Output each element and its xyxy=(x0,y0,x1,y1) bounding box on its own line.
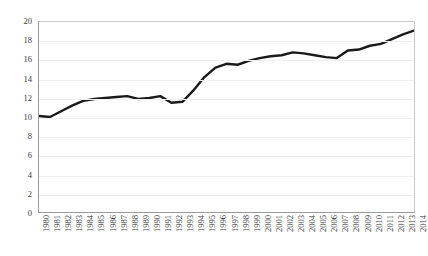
y-tick-label: 0 xyxy=(28,209,32,218)
x-axis: 1980198119821983198419851986198719881989… xyxy=(38,215,415,256)
y-axis: 02468101214161820 xyxy=(0,0,36,256)
x-tick-label: 1984 xyxy=(86,215,95,232)
x-tick-label-text: 1994 xyxy=(197,215,206,232)
x-tick-label: 2014 xyxy=(419,215,428,232)
x-tick-label-text: 2003 xyxy=(297,215,306,232)
x-tick-label-text: 1988 xyxy=(131,215,140,232)
x-tick-label-text: 1997 xyxy=(231,215,240,232)
y-tick-label: 2 xyxy=(28,189,32,198)
x-tick-label: 1998 xyxy=(242,215,251,232)
x-tick-label-text: 2001 xyxy=(275,215,284,232)
x-tick-label: 1999 xyxy=(253,215,262,232)
x-tick-label: 2012 xyxy=(397,215,406,232)
x-tick-label: 1995 xyxy=(208,215,217,232)
x-tick-label-text: 1992 xyxy=(175,215,184,232)
gridline xyxy=(39,156,414,157)
y-tick-label: 8 xyxy=(28,132,32,141)
x-tick-label: 1994 xyxy=(197,215,206,232)
x-tick-label: 1981 xyxy=(53,215,62,232)
x-tick-label: 2011 xyxy=(386,215,395,232)
x-tick-label: 2006 xyxy=(330,215,339,232)
x-tick-label-text: 2008 xyxy=(352,215,361,232)
x-tick-label-text: 1996 xyxy=(219,215,228,232)
x-tick-label-text: 1983 xyxy=(75,215,84,232)
x-tick-label-text: 2005 xyxy=(319,215,328,232)
x-tick-label-text: 1987 xyxy=(120,215,129,232)
x-tick-label: 2008 xyxy=(352,215,361,232)
y-tick-label: 18 xyxy=(24,36,33,45)
x-tick-label: 1991 xyxy=(164,215,173,232)
series-line xyxy=(39,22,414,212)
x-tick-label-text: 2000 xyxy=(264,215,273,232)
x-tick-label: 1987 xyxy=(120,215,129,232)
gridline xyxy=(39,137,414,138)
x-tick-label: 1993 xyxy=(186,215,195,232)
x-tick-label-text: 1986 xyxy=(109,215,118,232)
x-tick-label-text: 1984 xyxy=(86,215,95,232)
plot-area xyxy=(38,21,415,213)
x-tick-label-text: 1993 xyxy=(186,215,195,232)
x-tick-label-text: 1980 xyxy=(42,215,51,232)
x-tick-label-text: 1991 xyxy=(164,215,173,232)
x-tick-label: 1992 xyxy=(175,215,184,232)
x-tick-label-text: 1989 xyxy=(142,215,151,232)
y-tick-label: 14 xyxy=(24,74,33,83)
x-tick-label: 1982 xyxy=(64,215,73,232)
x-tick-label: 2005 xyxy=(319,215,328,232)
x-tick-label: 2009 xyxy=(364,215,373,232)
gridline xyxy=(39,41,414,42)
x-tick-label-text: 1990 xyxy=(153,215,162,232)
x-tick-label-text: 2007 xyxy=(341,215,350,232)
x-tick-label-text: 2006 xyxy=(330,215,339,232)
gridline xyxy=(39,60,414,61)
y-tick-label: 6 xyxy=(28,151,32,160)
x-tick-label: 1997 xyxy=(231,215,240,232)
x-tick-label: 2000 xyxy=(264,215,273,232)
x-tick-label: 1988 xyxy=(131,215,140,232)
x-tick-label: 1990 xyxy=(153,215,162,232)
y-tick-label: 20 xyxy=(24,17,33,26)
x-tick-label-text: 1999 xyxy=(253,215,262,232)
x-tick-label-text: 1998 xyxy=(242,215,251,232)
y-tick-label: 12 xyxy=(24,93,33,102)
x-tick-label-text: 1985 xyxy=(97,215,106,232)
x-tick-label-text: 1982 xyxy=(64,215,73,232)
x-tick-label: 1985 xyxy=(97,215,106,232)
x-tick-label: 2001 xyxy=(275,215,284,232)
y-tick-label: 16 xyxy=(24,55,33,64)
x-tick-label: 1986 xyxy=(109,215,118,232)
x-tick-label: 1989 xyxy=(142,215,151,232)
x-tick-label: 2003 xyxy=(297,215,306,232)
x-tick-label-text: 2013 xyxy=(408,215,417,232)
x-tick-label-text: 2014 xyxy=(419,215,428,232)
x-tick-label-text: 2009 xyxy=(364,215,373,232)
gridline xyxy=(39,99,414,100)
y-tick-label: 10 xyxy=(24,113,33,122)
x-tick-label: 2013 xyxy=(408,215,417,232)
gridline xyxy=(39,176,414,177)
gridline xyxy=(39,195,414,196)
x-tick-label: 2007 xyxy=(341,215,350,232)
x-tick-label-text: 1995 xyxy=(208,215,217,232)
x-tick-label-text: 2004 xyxy=(308,215,317,232)
x-tick-label-text: 1981 xyxy=(53,215,62,232)
x-tick-label: 1996 xyxy=(219,215,228,232)
x-tick-label-text: 2011 xyxy=(386,215,395,232)
x-tick-label-text: 2012 xyxy=(397,215,406,232)
gridline xyxy=(39,80,414,81)
gridline xyxy=(39,118,414,119)
x-tick-label: 2010 xyxy=(375,215,384,232)
x-tick-label: 2004 xyxy=(308,215,317,232)
x-tick-label-text: 2010 xyxy=(375,215,384,232)
x-tick-label: 1980 xyxy=(42,215,51,232)
y-tick-label: 4 xyxy=(28,170,32,179)
x-tick-label: 2002 xyxy=(286,215,295,232)
x-tick-label-text: 2002 xyxy=(286,215,295,232)
x-tick-label: 1983 xyxy=(75,215,84,232)
